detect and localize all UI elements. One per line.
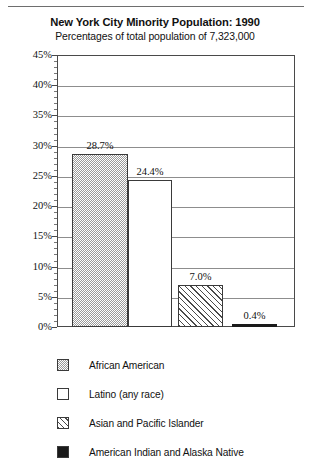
y-axis-tick-label: 30%	[0, 140, 52, 151]
gridline	[58, 177, 294, 178]
plot-area	[57, 55, 295, 327]
legend-item-label: Latino (any race)	[89, 389, 164, 400]
y-axis-tick-label: 45%	[0, 50, 52, 61]
legend-swatch-icon	[57, 417, 69, 429]
gridline	[58, 147, 294, 148]
y-axis-labels: 45%40%35%30%25%20%15%10%5%0%	[0, 55, 52, 327]
y-axis-major-tick	[52, 327, 57, 328]
legend-item[interactable]: American Indian and Alaska Native	[57, 445, 244, 459]
y-axis-tick-label: 25%	[0, 171, 52, 182]
legend-item-label: American Indian and Alaska Native	[89, 447, 244, 458]
chart-title: New York City Minority Population: 1990	[0, 16, 310, 28]
chart-subtitle: Percentages of total population of 7,323…	[0, 31, 310, 42]
y-axis-tick-label: 5%	[0, 292, 52, 303]
gridline	[58, 116, 294, 117]
y-axis-tick-label: 10%	[0, 261, 52, 272]
gridline	[58, 268, 294, 269]
gridline	[58, 237, 294, 238]
legend-item[interactable]: Asian and Pacific Islander	[57, 416, 204, 430]
legend-item-label: African American	[89, 360, 164, 371]
top-divider-rule	[8, 6, 304, 7]
legend-swatch-icon	[57, 359, 69, 371]
gridline	[58, 298, 294, 299]
legend-item[interactable]: African American	[57, 358, 164, 372]
legend-item[interactable]: Latino (any race)	[57, 387, 164, 401]
legend-swatch-icon	[57, 388, 69, 400]
y-axis-tick-label: 0%	[0, 322, 52, 333]
y-axis-tick-label: 20%	[0, 201, 52, 212]
gridline	[58, 86, 294, 87]
y-axis-tick-label: 40%	[0, 80, 52, 91]
gridline	[58, 207, 294, 208]
y-axis-tick-label: 35%	[0, 110, 52, 121]
legend-swatch-icon	[57, 446, 69, 458]
legend-item-label: Asian and Pacific Islander	[89, 418, 204, 429]
y-axis-tick-label: 15%	[0, 231, 52, 242]
